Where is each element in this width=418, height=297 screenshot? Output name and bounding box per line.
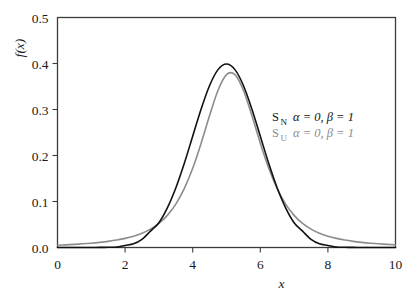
y-tick-label: 0.1 [32, 195, 49, 210]
series-line-s-n [58, 64, 396, 247]
x-tick-label: 2 [122, 257, 129, 272]
legend-params: α = 0, β = 1 [293, 126, 354, 140]
legend-symbol-subscript: U [281, 133, 288, 143]
legend-symbol: S [272, 126, 279, 140]
series-line-s-u [58, 73, 396, 246]
legend-symbol-subscript: N [281, 117, 288, 127]
y-tick-label: 0.5 [32, 11, 49, 26]
legend-params: α = 0, β = 1 [293, 110, 354, 124]
legend-entry-su: SUα = 0, β = 1 [272, 126, 354, 143]
y-axis-label: f(x) [12, 38, 27, 57]
figure-canvas: 0.00.10.20.30.40.50246810xf(x)SNα = 0, β… [0, 0, 418, 297]
y-tick-label: 0.3 [32, 103, 49, 118]
x-tick-label: 0 [54, 257, 61, 272]
legend-entry-sn: SNα = 0, β = 1 [272, 110, 354, 127]
x-tick-label: 6 [257, 257, 264, 272]
line-chart: 0.00.10.20.30.40.50246810xf(x)SNα = 0, β… [0, 0, 418, 297]
y-tick-label: 0.2 [32, 149, 49, 164]
x-tick-label: 4 [189, 257, 196, 272]
x-tick-label: 10 [389, 257, 403, 272]
x-axis-label: x [278, 276, 285, 291]
legend-symbol: S [272, 110, 279, 124]
x-tick-label: 8 [325, 257, 332, 272]
y-tick-label: 0.0 [32, 241, 49, 256]
y-tick-label: 0.4 [32, 57, 49, 72]
